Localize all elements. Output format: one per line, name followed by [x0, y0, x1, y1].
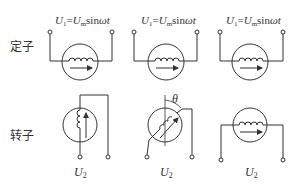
stator-winding-1	[48, 30, 114, 80]
rotor-voltage-2: U2	[160, 165, 173, 180]
stator-voltage-3: U1=Umsinωt	[226, 14, 282, 28]
stator-winding-2	[132, 30, 199, 80]
svg-text:U1=Umsinωt: U1=Umsinωt	[55, 14, 111, 28]
rotor-label: 转子	[10, 128, 34, 143]
rotor-voltage-3: U2	[245, 165, 258, 180]
rotor-winding-3	[219, 108, 285, 162]
rotor-winding-1	[63, 95, 110, 159]
svg-text:U1=Umsinωt: U1=Umsinωt	[141, 14, 197, 28]
theta-label: θ	[172, 92, 178, 106]
stator-label: 定子	[10, 39, 34, 54]
rotor-voltage-1: U2	[74, 165, 87, 180]
stator-voltage-2: U1=Umsinωt	[141, 14, 197, 28]
stator-winding-3	[218, 30, 285, 80]
stator-voltage-1: U1=Umsinωt	[55, 14, 111, 28]
stator-rotor-diagram: 定子 转子 U1=Umsinωt U1=Umsinωt U1=Umsinωt	[0, 0, 302, 185]
svg-text:U1=Umsinωt: U1=Umsinωt	[226, 14, 282, 28]
rotor-winding-2	[145, 95, 194, 159]
